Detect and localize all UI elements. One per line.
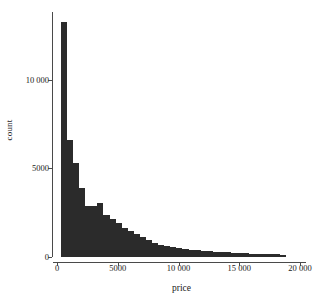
plot-area [53,12,310,257]
x-axis-tick-mark [300,262,301,266]
x-axis-tick-mark [57,262,58,266]
x-axis-tick-mark [118,262,119,266]
histogram-bar [280,255,286,257]
histogram-figure: count 0500010 000 0500010 00015 00020 00… [0,0,317,307]
x-axis-tick-labels: 0500010 00015 00020 000 [0,263,317,279]
y-axis-tick-label: 5000 [3,163,49,173]
x-axis-tick-mark [179,262,180,266]
y-axis-tick-labels: 0500010 000 [0,0,49,307]
x-axis-tick-mark [239,262,240,266]
y-axis-tick-mark [48,80,52,81]
y-axis-tick-mark [48,257,52,258]
y-axis-tick-mark [48,168,52,169]
y-axis-tick-label: 0 [3,252,49,262]
x-axis-title: price [53,283,310,293]
y-axis-tick-label: 10 000 [3,75,49,85]
